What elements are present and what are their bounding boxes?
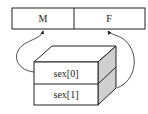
cell-f-label: F [106, 13, 112, 24]
pointer-array-diagram: M F sex[0] sex[1] [0, 0, 148, 114]
cell-m-label: M [39, 13, 48, 24]
slot-1-label: sex[1] [54, 89, 79, 100]
array-box [12, 8, 145, 29]
slot-0-label: sex[0] [54, 68, 79, 79]
pointer-block: sex[0] sex[1] [34, 46, 116, 105]
string-array: M F [12, 8, 145, 29]
